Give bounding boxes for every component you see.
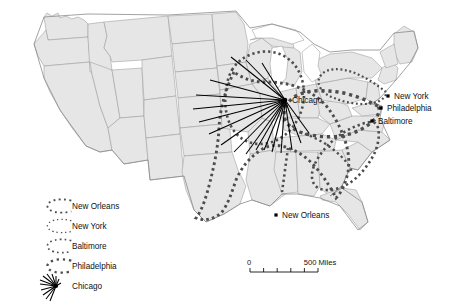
legend-item-new-orleans[interactable]: New Orleans	[47, 199, 119, 212]
scale-bar: 0500 Miles	[247, 258, 337, 272]
state-wa	[44, 13, 88, 40]
state-ne	[175, 68, 220, 98]
legend-label-baltimore: Baltimore	[72, 242, 107, 251]
legend-item-chicago[interactable]: Chicago	[40, 274, 102, 301]
map-legend: New OrleansNew YorkBaltimorePhiladelphia…	[40, 199, 119, 301]
city-label-new-york: New York	[394, 92, 429, 101]
state-mt	[104, 16, 172, 62]
state-sd	[172, 40, 217, 72]
state-al	[296, 152, 320, 196]
city-marker-philadelphia[interactable]	[379, 106, 382, 109]
legend-item-baltimore[interactable]: Baltimore	[47, 239, 107, 252]
city-label-baltimore: Baltimore	[378, 117, 413, 126]
legend-symbol-new-orleans	[47, 199, 71, 212]
scale-end-label: 500 Miles	[304, 258, 337, 267]
legend-label-philadelphia: Philadelphia	[72, 262, 117, 271]
city-marker-new-york[interactable]	[386, 94, 389, 97]
state-wy	[142, 56, 176, 100]
state-tn	[274, 134, 336, 152]
state-fl	[320, 188, 368, 230]
states-layer	[34, 12, 418, 230]
city-label-chicago: Chicago	[292, 96, 322, 105]
hub-node-chicago[interactable]	[283, 98, 288, 103]
state-co	[144, 96, 180, 138]
state-nd	[168, 14, 214, 44]
legend-starburst-node	[54, 284, 58, 288]
state-nm	[146, 134, 184, 180]
state-az	[108, 116, 148, 164]
legend-label-new-orleans: New Orleans	[72, 202, 119, 211]
legend-symbol-new-york	[47, 219, 71, 232]
scale-start-label: 0	[247, 258, 251, 267]
legend-label-chicago: Chicago	[72, 282, 102, 291]
state-wi	[246, 38, 274, 84]
legend-symbol-philadelphia	[47, 259, 71, 272]
legend-symbol-baltimore	[47, 239, 71, 252]
city-label-philadelphia: Philadelphia	[387, 104, 432, 113]
map-figure: New YorkPhiladelphiaBaltimoreNew Orleans…	[0, 0, 459, 307]
state-ks	[178, 94, 222, 128]
legend-label-new-york: New York	[72, 222, 107, 231]
city-marker-new-orleans[interactable]	[274, 213, 277, 216]
legend-item-new-york[interactable]: New York	[47, 219, 107, 232]
legend-item-philadelphia[interactable]: Philadelphia	[47, 259, 117, 272]
city-marker-baltimore[interactable]	[370, 119, 373, 122]
state-ok	[180, 124, 232, 156]
thematic-map: New YorkPhiladelphiaBaltimoreNew Orleans…	[0, 0, 459, 307]
city-label-new-orleans: New Orleans	[282, 211, 329, 220]
